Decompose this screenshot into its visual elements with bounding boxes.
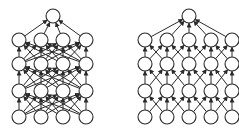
hidden-node: [160, 84, 174, 98]
hidden-node: [182, 57, 196, 71]
network-diagrams: [0, 0, 239, 136]
fully-connected-network: [12, 9, 93, 124]
hidden-node: [204, 33, 218, 47]
hidden-node: [79, 57, 93, 71]
input-node: [79, 110, 93, 124]
output-node: [182, 9, 196, 23]
hidden-node: [138, 84, 152, 98]
locally-connected-network: [138, 9, 239, 124]
hidden-node: [225, 57, 239, 71]
hidden-node: [12, 57, 26, 71]
output-node: [46, 9, 60, 23]
hidden-node: [182, 33, 196, 47]
hidden-node: [34, 84, 48, 98]
hidden-node: [34, 33, 48, 47]
hidden-node: [79, 33, 93, 47]
hidden-node: [225, 33, 239, 47]
hidden-node: [79, 84, 93, 98]
hidden-node: [56, 84, 70, 98]
input-node: [160, 110, 174, 124]
connection-edge: [194, 21, 207, 35]
hidden-node: [56, 57, 70, 71]
hidden-node: [225, 84, 239, 98]
hidden-node: [204, 84, 218, 98]
hidden-node: [204, 57, 218, 71]
hidden-node: [160, 57, 174, 71]
input-node: [12, 110, 26, 124]
input-node: [138, 110, 152, 124]
input-node: [225, 110, 239, 124]
hidden-node: [182, 84, 196, 98]
connection-edge: [172, 21, 185, 35]
hidden-node: [12, 84, 26, 98]
hidden-node: [56, 33, 70, 47]
hidden-node: [160, 33, 174, 47]
hidden-node: [34, 57, 48, 71]
hidden-node: [12, 33, 26, 47]
input-node: [34, 110, 48, 124]
input-node: [204, 110, 218, 124]
input-node: [182, 110, 196, 124]
input-node: [56, 110, 70, 124]
connection-edge: [56, 22, 61, 33]
hidden-node: [138, 33, 152, 47]
connection-edge: [44, 22, 50, 33]
hidden-node: [138, 57, 152, 71]
